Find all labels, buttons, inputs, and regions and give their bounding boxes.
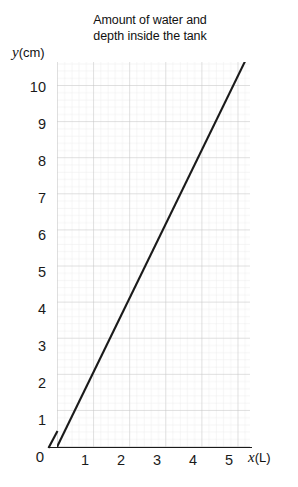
y-tick-label: 1: [16, 412, 46, 428]
x-tick-label: 2: [111, 452, 131, 468]
x-tick-label: 5: [219, 452, 239, 468]
y-tick-label: 2: [16, 375, 46, 391]
x-tick-label: 4: [183, 452, 203, 468]
y-tick-label: 3: [16, 338, 46, 354]
chart-title: Amount of water and depth inside the tan…: [60, 12, 240, 44]
y-axis-variable: y: [12, 44, 19, 60]
plot-area: [57, 62, 250, 447]
x-tick-label-origin: 0: [30, 448, 50, 465]
x-tick-label: 1: [75, 452, 95, 468]
y-tick-label: 6: [16, 227, 46, 243]
y-axis-label: y(cm): [12, 44, 45, 61]
y-tick-label: 8: [16, 153, 46, 169]
data-series-line: [57, 62, 250, 447]
x-tick-label: 3: [147, 452, 167, 468]
chart-figure: Amount of water and depth inside the tan…: [0, 0, 298, 487]
x-axis-unit: (L): [255, 450, 271, 465]
y-tick-label: 4: [16, 301, 46, 317]
x-axis-variable: x: [248, 449, 255, 465]
y-tick-label: 7: [16, 190, 46, 206]
chart-title-line-2: depth inside the tank: [60, 28, 240, 44]
y-tick-label: 9: [16, 116, 46, 132]
chart-title-line-1: Amount of water and: [60, 12, 240, 28]
y-tick-label: 10: [16, 79, 46, 95]
y-axis-unit: (cm): [19, 45, 45, 60]
x-axis-label: x(L): [248, 449, 271, 466]
y-tick-label: 5: [16, 264, 46, 280]
